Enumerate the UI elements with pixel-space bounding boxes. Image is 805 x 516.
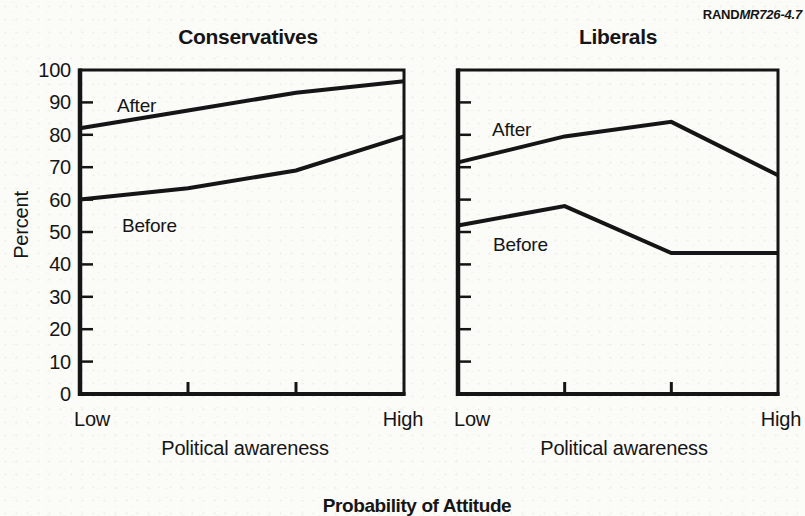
series-label-after: After (492, 119, 532, 140)
series-label-after: After (117, 95, 157, 116)
y-tick-label: 50 (49, 221, 71, 243)
y-tick-label: 0 (60, 383, 71, 405)
x-axis-label-right: Political awareness (499, 437, 749, 460)
x-end-label-low-left: Low (57, 408, 127, 431)
x-axis-label-left: Political awareness (120, 437, 370, 460)
x-end-label-high-right: High (746, 408, 805, 431)
series-label-before: Before (493, 234, 548, 255)
x-end-label-high-left: High (368, 408, 438, 431)
figure-caption: Probability of Attitude (257, 496, 577, 516)
x-end-label-low-right: Low (437, 408, 507, 431)
y-tick-label: 30 (49, 286, 71, 308)
series-line-before (80, 136, 404, 199)
y-tick-label: 90 (49, 91, 71, 113)
y-tick-label: 70 (49, 156, 71, 178)
chart-conservatives: 0102030405060708090100AfterBefore (38, 59, 405, 405)
y-tick-label: 20 (49, 318, 71, 340)
chart-liberals: AfterBefore (456, 69, 780, 397)
y-tick-label: 100 (38, 59, 71, 81)
y-tick-label: 10 (49, 351, 71, 373)
y-tick-label: 40 (49, 253, 71, 275)
y-tick-label: 80 (49, 124, 71, 146)
y-tick-label: 60 (49, 189, 71, 211)
series-label-before: Before (122, 215, 177, 236)
